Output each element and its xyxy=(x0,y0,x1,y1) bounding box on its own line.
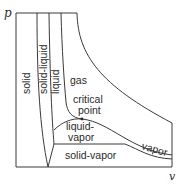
x-axis-label: v xyxy=(169,170,176,183)
region-label-liquid-vapor-line2: vapor xyxy=(68,131,95,143)
region-label-solid: solid xyxy=(20,72,32,94)
region-label-gas: gas xyxy=(70,74,87,86)
region-label-solid-vapor: solid-vapor xyxy=(65,149,117,161)
critical-point-label-line2: point xyxy=(78,104,101,116)
region-label-vapor: vapor xyxy=(140,139,169,158)
region-label-solid-liquid: solid-liquid xyxy=(37,44,49,94)
region-label-liquid: liquid xyxy=(49,69,61,94)
y-axis-label: p xyxy=(4,6,12,20)
phase-diagram: p v solid solid-liquid liquid gas critic… xyxy=(0,0,186,185)
